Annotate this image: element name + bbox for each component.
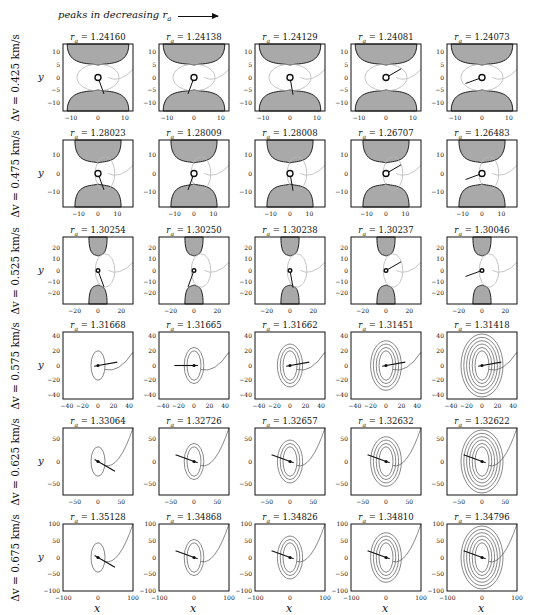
panel-title: ra = 1.32657 <box>255 416 325 428</box>
y-tick-label: 100 <box>433 520 444 527</box>
r-a-value: 1.35128 <box>91 512 126 522</box>
r-a-value: 1.34868 <box>187 512 222 522</box>
x-tick-label: 0 <box>378 594 394 601</box>
y-tick-label: −100 <box>332 587 348 594</box>
x-tick-label: 0 <box>186 594 202 601</box>
y-tick-label: −20 <box>47 376 60 383</box>
x-tick-label: 10 <box>493 210 509 217</box>
y-tick-label: −5 <box>243 86 252 93</box>
plot-area <box>447 237 517 304</box>
y-tick-label: −10 <box>47 278 60 285</box>
r-a-value: 1.32726 <box>187 416 222 426</box>
x-tick-label: 10 <box>397 210 413 217</box>
x-tick-label: 100 <box>221 594 237 601</box>
row-label-text: Δv = 0.675 km/s <box>9 514 21 602</box>
plot-area <box>351 140 421 207</box>
r-a-value: 1.32622 <box>475 416 510 426</box>
y-tick-label: −10 <box>431 99 444 106</box>
y-tick-label: 10 <box>52 255 60 262</box>
plot-area <box>351 332 421 399</box>
y-tick-label: 20 <box>340 347 348 354</box>
x-tick-label: −20 <box>259 307 275 314</box>
y-tick-label: 50 <box>52 435 60 442</box>
y-tick-label: 10 <box>340 255 348 262</box>
y-tick-label: −5 <box>339 86 348 93</box>
plot-area <box>351 524 421 591</box>
x-tick-label: 0 <box>282 594 298 601</box>
y-tick-label: 10 <box>244 48 252 55</box>
y-axis-label: y <box>38 551 44 562</box>
r-a-value: 1.30254 <box>91 225 126 235</box>
plot-area <box>447 332 517 399</box>
y-tick-label: 100 <box>241 520 252 527</box>
y-tick-label: 0 <box>344 362 348 369</box>
panel-title: ra = 1.30238 <box>255 225 325 237</box>
x-tick-label: 100 <box>509 594 525 601</box>
trajectory-panel: ra = 1.31451−40−2002040−40−2002040 <box>351 332 421 399</box>
y-tick-label: −40 <box>47 391 60 398</box>
y-tick-label: −40 <box>143 391 156 398</box>
y-tick-label: 20 <box>52 244 60 251</box>
y-tick-label: 20 <box>436 347 444 354</box>
row-label: Δv = 0.475 km/s <box>0 140 30 207</box>
r-a-value: 1.24129 <box>283 32 318 42</box>
row-label-text: Δv = 0.425 km/s <box>9 34 21 122</box>
y-tick-label: 0 <box>440 362 444 369</box>
y-tick-label: −10 <box>143 278 156 285</box>
x-tick-label: 10 <box>205 210 221 217</box>
plot-area <box>159 332 229 399</box>
y-tick-label: 0 <box>344 74 348 81</box>
y-tick-label: 20 <box>148 244 156 251</box>
x-axis-label: x <box>94 602 100 615</box>
trajectory-panel: ra = 1.31418−40−2002040−40−2002040 <box>447 332 517 399</box>
x-tick-label: 50 <box>305 498 321 505</box>
x-tick-label: 0 <box>474 210 490 217</box>
y-tick-label: 5 <box>344 61 348 68</box>
x-tick-label: 0 <box>282 402 298 409</box>
x-tick-label: 20 <box>394 402 410 409</box>
trajectory-panel: ra = 1.30237−20−1001020−20020 <box>351 237 421 304</box>
plot-area <box>351 237 421 304</box>
x-tick-label: 20 <box>298 402 314 409</box>
plot-area <box>255 332 325 399</box>
panel-title: ra = 1.31418 <box>447 320 517 332</box>
r-a-value: 1.34796 <box>475 512 510 522</box>
x-tick-label: 40 <box>505 402 521 409</box>
r-a-value: 1.26483 <box>475 128 510 138</box>
x-tick-label: −40 <box>251 402 267 409</box>
y-tick-label: 0 <box>152 458 156 465</box>
x-axis-label: x <box>382 602 388 615</box>
trajectory-panel: ra = 1.24073−10−50510−10010 <box>447 44 517 111</box>
x-tick-label: 40 <box>313 402 329 409</box>
plot-area <box>63 428 133 495</box>
y-tick-label: −20 <box>431 376 444 383</box>
y-tick-label: 5 <box>440 61 444 68</box>
x-tick-label: 0 <box>186 114 202 121</box>
y-tick-label: 0 <box>344 267 348 274</box>
x-tick-label: −20 <box>362 402 378 409</box>
x-tick-label: −10 <box>255 114 271 121</box>
r-a-value: 1.24160 <box>91 32 126 42</box>
x-tick-label: 0 <box>186 307 202 314</box>
x-tick-label: −20 <box>458 402 474 409</box>
trajectory-panel: ra = 1.32632−50050−50050 <box>351 428 421 495</box>
trajectory-panel: ra = 1.28009−10010−10010 <box>159 140 229 207</box>
row-label-text: Δv = 0.475 km/s <box>9 130 21 218</box>
row-label-text: Δv = 0.575 km/s <box>9 322 21 410</box>
y-tick-label: 0 <box>344 554 348 561</box>
r-a-value: 1.31668 <box>91 320 126 330</box>
trajectory-panel: ra = 1.32622−50050−50050 <box>447 428 517 495</box>
x-tick-label: 0 <box>378 114 394 121</box>
y-tick-label: −50 <box>431 480 444 487</box>
panel-title: ra = 1.30254 <box>63 225 133 237</box>
trajectory-panel: ra = 1.34826−100−50050100−1000100x <box>255 524 325 591</box>
y-tick-label: 10 <box>436 151 444 158</box>
r-a-value: 1.30250 <box>187 225 222 235</box>
x-tick-label: 50 <box>497 498 513 505</box>
y-tick-label: −40 <box>239 391 252 398</box>
x-tick-label: 20 <box>490 402 506 409</box>
r-a-value: 1.31451 <box>379 320 414 330</box>
y-tick-label: −50 <box>239 480 252 487</box>
x-tick-label: 20 <box>305 307 321 314</box>
x-tick-label: −10 <box>351 114 367 121</box>
